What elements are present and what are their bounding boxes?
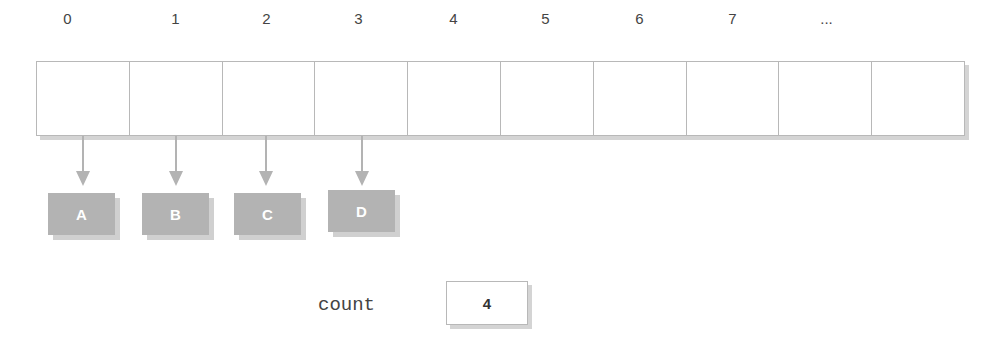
index-label-0: 0 [21,10,114,27]
array-cell [37,62,130,135]
array-cell [594,62,687,135]
count-label: count [318,294,375,316]
arrow-down-icon [169,136,183,186]
index-label-7: 7 [686,10,779,27]
arrow-down-icon [355,136,369,186]
index-label-4: 4 [407,10,500,27]
index-label-3: 3 [312,10,405,27]
array-cell [223,62,316,135]
node-b: B [142,193,209,235]
array-cell [687,62,780,135]
node-d: D [328,190,395,232]
array-cell [779,62,872,135]
node-c: C [234,193,301,235]
index-label-ellipsis: ... [780,10,873,27]
array-cell [315,62,408,135]
arrow-down-icon [259,136,273,186]
array-cell [130,62,223,135]
index-label-1: 1 [129,10,222,27]
node-a: A [48,193,115,235]
array-cell [408,62,501,135]
arrow-down-icon [76,136,90,186]
index-label-6: 6 [593,10,686,27]
index-label-2: 2 [220,10,313,27]
array-strip [36,61,965,136]
index-label-5: 5 [499,10,592,27]
count-value-box: 4 [446,281,528,325]
array-cell [872,62,964,135]
array-cell [501,62,594,135]
